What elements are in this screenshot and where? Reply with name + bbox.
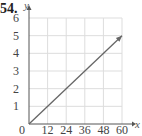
y-axis-label: y [23, 0, 29, 11]
x-tick-label: 60 [116, 123, 128, 136]
x-tick-label: 48 [97, 123, 109, 136]
y-tick-label: 6 [13, 11, 19, 25]
grid-lines [29, 18, 122, 124]
series-line [29, 36, 122, 124]
x-tick-label: 0 [19, 123, 25, 136]
axes [27, 5, 137, 127]
tick-labels: 01224364860123456 [13, 11, 128, 136]
chart: 01224364860123456 x y [0, 0, 142, 136]
y-tick-label: 5 [13, 29, 19, 43]
x-tick-label: 36 [79, 123, 91, 136]
y-tick-label: 1 [13, 99, 19, 113]
x-tick-label: 24 [60, 123, 72, 136]
y-tick-label: 4 [13, 46, 19, 60]
y-tick-label: 2 [13, 82, 19, 96]
x-axis-label: x [134, 118, 140, 130]
y-tick-label: 3 [13, 64, 19, 78]
x-tick-label: 12 [42, 123, 54, 136]
data-line [29, 36, 122, 124]
